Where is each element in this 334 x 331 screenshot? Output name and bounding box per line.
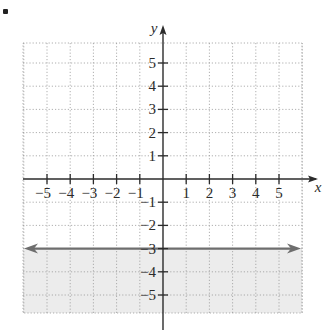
y-tick-label: −4 [140,264,156,280]
y-tick-label: −5 [140,287,156,303]
x-tick-label: 1 [182,185,190,201]
y-tick-label: 3 [149,101,157,117]
x-tick-label: −5 [35,185,51,201]
y-tick-label: 1 [149,148,157,164]
y-tick-label: 4 [149,78,157,94]
y-tick-label: −1 [140,194,156,210]
x-tick-label: −3 [81,185,97,201]
y-tick-label: 5 [149,55,157,71]
x-tick-label: −4 [58,185,74,201]
x-tick-label: −2 [105,185,121,201]
x-tick-label: 3 [229,185,237,201]
y-axis-label: y [149,20,158,36]
y-tick-label: −3 [140,241,156,257]
x-axis-label: x [314,179,322,195]
x-tick-label: 5 [275,185,283,201]
y-tick-label: −2 [140,217,156,233]
y-tick-label: 2 [149,125,157,141]
x-tick-label: 2 [206,185,214,201]
x-tick-label: 4 [252,185,260,201]
coordinate-plane: −5−4−3−2−11234554321−1−2−3−4−5xy [0,0,334,331]
